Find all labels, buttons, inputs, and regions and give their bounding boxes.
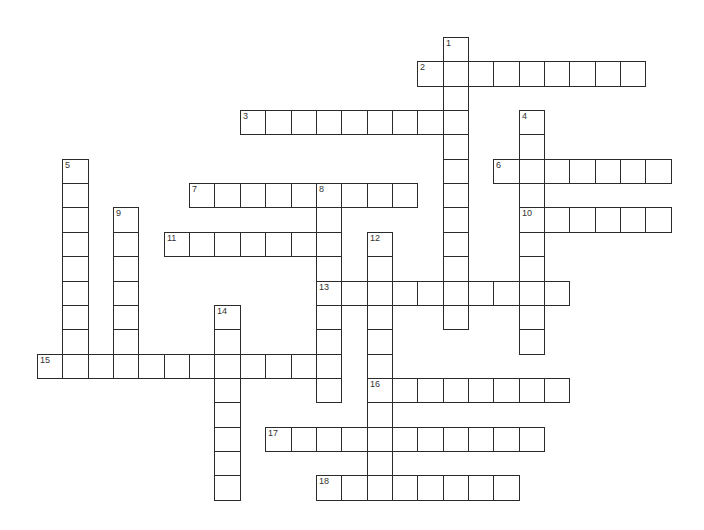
crossword-cell[interactable]: [443, 61, 469, 87]
crossword-cell[interactable]: [620, 207, 646, 233]
crossword-cell[interactable]: 8: [316, 183, 342, 208]
crossword-cell[interactable]: [392, 183, 418, 208]
crossword-cell[interactable]: [291, 427, 317, 452]
crossword-cell[interactable]: [493, 61, 520, 87]
crossword-cell[interactable]: [214, 232, 241, 257]
crossword-cell[interactable]: [569, 61, 596, 87]
crossword-cell[interactable]: [392, 281, 418, 306]
crossword-cell[interactable]: [367, 427, 393, 452]
crossword-cell[interactable]: [113, 232, 139, 257]
crossword-cell[interactable]: [392, 110, 418, 135]
crossword-cell[interactable]: [443, 378, 469, 403]
crossword-cell[interactable]: [214, 451, 241, 476]
crossword-cell[interactable]: 6: [493, 159, 520, 184]
crossword-cell[interactable]: [468, 378, 494, 403]
crossword-cell[interactable]: [189, 232, 215, 257]
crossword-cell[interactable]: [569, 207, 596, 233]
crossword-cell[interactable]: 16: [367, 378, 393, 403]
crossword-cell[interactable]: [519, 256, 545, 282]
crossword-cell[interactable]: [367, 451, 393, 476]
crossword-cell[interactable]: [265, 232, 292, 257]
crossword-cell[interactable]: [189, 354, 215, 379]
crossword-cell[interactable]: 12: [367, 232, 393, 257]
crossword-cell[interactable]: [341, 110, 368, 135]
crossword-cell[interactable]: [417, 427, 444, 452]
crossword-cell[interactable]: [62, 256, 89, 282]
crossword-cell[interactable]: [62, 232, 89, 257]
crossword-cell[interactable]: [291, 232, 317, 257]
crossword-cell[interactable]: [493, 427, 520, 452]
crossword-cell[interactable]: [62, 354, 89, 379]
crossword-cell[interactable]: [316, 256, 342, 282]
crossword-cell[interactable]: [316, 232, 342, 257]
crossword-cell[interactable]: [519, 427, 545, 452]
crossword-cell[interactable]: [316, 329, 342, 355]
crossword-cell[interactable]: 2: [417, 61, 444, 87]
crossword-cell[interactable]: [443, 232, 469, 257]
crossword-cell[interactable]: [62, 305, 89, 330]
crossword-cell[interactable]: [595, 159, 621, 184]
crossword-cell[interactable]: [645, 159, 672, 184]
crossword-cell[interactable]: [468, 61, 494, 87]
crossword-cell[interactable]: [519, 134, 545, 160]
crossword-cell[interactable]: [316, 354, 342, 379]
crossword-cell[interactable]: [443, 475, 469, 501]
crossword-cell[interactable]: 5: [62, 159, 89, 184]
crossword-cell[interactable]: [214, 183, 241, 208]
crossword-cell[interactable]: [316, 378, 342, 403]
crossword-cell[interactable]: [468, 281, 494, 306]
crossword-cell[interactable]: [138, 354, 165, 379]
crossword-cell[interactable]: [164, 354, 190, 379]
crossword-cell[interactable]: [493, 281, 520, 306]
crossword-cell[interactable]: [214, 427, 241, 452]
crossword-cell[interactable]: [645, 207, 672, 233]
crossword-cell[interactable]: [544, 378, 570, 403]
crossword-cell[interactable]: [519, 183, 545, 208]
crossword-cell[interactable]: [316, 110, 342, 135]
crossword-cell[interactable]: [316, 207, 342, 233]
crossword-cell[interactable]: [544, 61, 570, 87]
crossword-cell[interactable]: [62, 183, 89, 208]
crossword-cell[interactable]: [265, 183, 292, 208]
crossword-cell[interactable]: [113, 354, 139, 379]
crossword-cell[interactable]: [291, 354, 317, 379]
crossword-cell[interactable]: [367, 256, 393, 282]
crossword-cell[interactable]: [367, 281, 393, 306]
crossword-cell[interactable]: [392, 378, 418, 403]
crossword-cell[interactable]: [316, 305, 342, 330]
crossword-cell[interactable]: [443, 207, 469, 233]
crossword-cell[interactable]: [113, 256, 139, 282]
crossword-cell[interactable]: 14: [214, 305, 241, 330]
crossword-cell[interactable]: [620, 61, 646, 87]
crossword-cell[interactable]: [595, 207, 621, 233]
crossword-cell[interactable]: [113, 305, 139, 330]
crossword-cell[interactable]: [443, 110, 469, 135]
crossword-cell[interactable]: [265, 110, 292, 135]
crossword-cell[interactable]: [519, 305, 545, 330]
crossword-cell[interactable]: [62, 281, 89, 306]
crossword-cell[interactable]: [214, 329, 241, 355]
crossword-cell[interactable]: [240, 354, 266, 379]
crossword-cell[interactable]: [443, 305, 469, 330]
crossword-cell[interactable]: [519, 61, 545, 87]
crossword-cell[interactable]: 9: [113, 207, 139, 233]
crossword-cell[interactable]: [595, 61, 621, 87]
crossword-cell[interactable]: [443, 427, 469, 452]
crossword-cell[interactable]: [62, 207, 89, 233]
crossword-cell[interactable]: [519, 232, 545, 257]
crossword-cell[interactable]: [519, 281, 545, 306]
crossword-cell[interactable]: [519, 329, 545, 355]
crossword-cell[interactable]: [519, 159, 545, 184]
crossword-cell[interactable]: 15: [37, 354, 63, 379]
crossword-cell[interactable]: 13: [316, 281, 342, 306]
crossword-cell[interactable]: [443, 159, 469, 184]
crossword-cell[interactable]: [569, 159, 596, 184]
crossword-cell[interactable]: [341, 475, 368, 501]
crossword-cell[interactable]: [367, 110, 393, 135]
crossword-cell[interactable]: [291, 110, 317, 135]
crossword-cell[interactable]: [88, 354, 114, 379]
crossword-cell[interactable]: [443, 256, 469, 282]
crossword-cell[interactable]: [417, 110, 444, 135]
crossword-cell[interactable]: [417, 378, 444, 403]
crossword-cell[interactable]: 10: [519, 207, 545, 233]
